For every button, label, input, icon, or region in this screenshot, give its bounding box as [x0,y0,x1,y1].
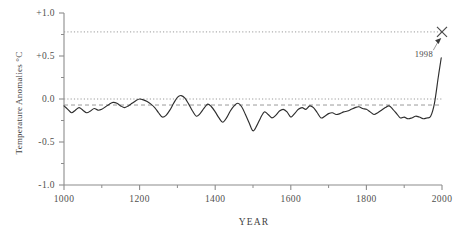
y-axis-title-text: Temperature Anomalies °C [14,52,24,155]
temperature-series-line [64,58,441,131]
x-tick-label: 2000 [432,194,453,204]
x-tick-label: 1600 [280,194,301,204]
callout-arrow-head [435,38,441,44]
x-tick-label: 1400 [205,194,226,204]
y-axis-ticks: -1.0-0.50.0+0.5+1.0 [36,8,64,190]
callout-label: 1998 [415,49,433,59]
y-tick-label: +1.0 [36,8,55,18]
data-markers [437,27,447,37]
chart-canvas: Temperature Anomalies °C -1.0-0.50.0+0.5… [0,0,471,236]
x-axis-title-text: YEAR [239,217,269,227]
1998-x-marker [437,27,447,37]
x-tick-label: 1800 [356,194,377,204]
y-tick-label: -0.5 [38,137,55,147]
temperature-anomaly-chart: Temperature Anomalies °C -1.0-0.50.0+0.5… [0,0,471,236]
y-tick-label: 0.0 [42,94,55,104]
x-axis-ticks: 100012001400160018002000 [54,185,453,204]
y-tick-label: +0.5 [36,51,55,61]
x-tick-label: 1000 [54,194,75,204]
reference-lines [64,32,442,105]
chart-annotations: 1998 [415,38,441,59]
y-axis-title: Temperature Anomalies °C [14,52,24,155]
x-tick-label: 1200 [129,194,150,204]
y-tick-label: -1.0 [38,180,55,190]
